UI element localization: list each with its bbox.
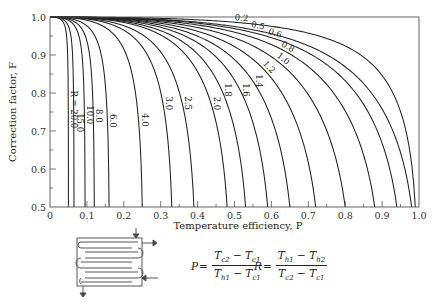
x-tick-label: 0.8	[338, 210, 353, 221]
y-axis-title: Correction factor, F	[7, 62, 18, 162]
curve-label-r-1-4: 1.4	[254, 74, 264, 88]
tube-pass-1	[78, 242, 138, 248]
curve-label-r-1-8: 1.8	[223, 83, 233, 97]
y-tick-label: 1.0	[31, 12, 46, 23]
curve-label-r-1-2: 1.2	[261, 58, 277, 75]
curve-label-r-4-0: 4.0	[140, 113, 150, 127]
x-tick-label: 0.9	[375, 210, 390, 221]
y-tick-label: 0.9	[31, 50, 46, 61]
x-tick-label: 0.1	[79, 210, 94, 221]
tube-pass-2	[85, 248, 143, 258]
curve-r-1-6	[50, 17, 268, 207]
arrow-right-icon	[153, 240, 157, 246]
curve-label-r-10-0: 10.0	[85, 105, 95, 124]
tube-pass-4	[85, 268, 143, 278]
y-tick-label: 0.7	[31, 126, 46, 137]
arrow-down-icon	[133, 234, 139, 238]
x-tick-label: 0.3	[153, 210, 168, 221]
formula-p: P = Tc2 − Tc1 Th1 − Tc1	[191, 249, 263, 282]
heat-exchanger-schematic	[76, 228, 158, 297]
equals-sign: =	[199, 260, 208, 272]
curve-label-r-0-2: 0.2	[234, 12, 248, 23]
y-tick-label: 0.5	[31, 202, 46, 213]
curve-label-r-1-6: 1.6	[241, 83, 251, 97]
plot-frame	[50, 17, 419, 207]
formula-r-denominator: Tc2 − Tc1	[276, 266, 326, 282]
formula-p-lhs: P	[191, 260, 198, 272]
x-tick-label: 1.0	[411, 210, 426, 221]
x-tick-label: 0	[47, 210, 53, 221]
formula-r-lhs: R	[254, 260, 262, 272]
formula-r-fraction: Th1 − Th2 Tc2 − Tc1	[276, 249, 327, 282]
curve-label-r-0-6: 0.6	[267, 26, 283, 40]
tube-pass-3	[76, 258, 132, 268]
y-tick-label: 0.8	[31, 88, 46, 99]
x-tick-label: 0.7	[301, 210, 316, 221]
curve-label-r-3-0: 3.0	[164, 97, 174, 111]
curve-label-r-8-0: 8.0	[94, 109, 104, 123]
x-axis-title: Temperature efficiency, P	[173, 220, 302, 231]
curve-label-r-2-0: 2.0	[212, 97, 222, 111]
equals-sign: =	[263, 260, 272, 272]
formula-r: R = Th1 − Th2 Tc2 − Tc1	[254, 249, 327, 282]
y-tick-label: 0.6	[31, 164, 46, 175]
curve-label-r-6-0: 6.0	[108, 114, 118, 128]
x-tick-label: 0.2	[116, 210, 131, 221]
tube-pass-5	[80, 278, 132, 284]
curve-label-r-15-0: 15.0	[75, 113, 85, 132]
curve-labels: R = 20.015.010.08.06.04.03.02.52.01.81.6…	[69, 12, 296, 132]
formula-r-numerator: Th1 − Th2	[276, 249, 327, 266]
arrow-down-icon	[80, 293, 86, 297]
curve-label-r-2-5: 2.5	[183, 96, 193, 110]
